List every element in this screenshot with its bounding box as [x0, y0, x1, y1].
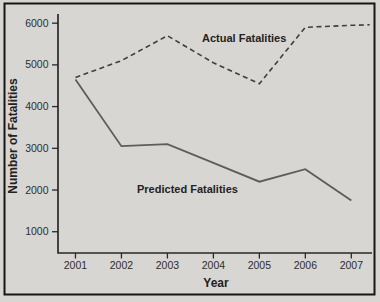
chart-frame	[5, 4, 375, 295]
y-tick-label: 6000	[25, 17, 49, 29]
x-tick-label: 2005	[248, 259, 272, 271]
x-tick-label: 2001	[64, 259, 88, 271]
y-axis-title: Number of Fatalities	[6, 78, 20, 194]
x-tick-label: 2002	[110, 259, 134, 271]
x-axis-title: Year	[203, 276, 229, 290]
y-tick-label: 3000	[25, 142, 49, 154]
x-tick-label: 2004	[202, 259, 226, 271]
x-tick-label: 2007	[340, 259, 364, 271]
x-tick-label: 2006	[294, 259, 318, 271]
predicted-series-inline-label: Predicted Fatalities	[137, 183, 238, 195]
y-tick-label: 5000	[25, 58, 49, 70]
fatalities-line-chart: 1000200030004000500060002001200220032004…	[0, 0, 380, 302]
axis-spines	[58, 14, 372, 253]
y-tick-label: 4000	[25, 100, 49, 112]
axes: 1000200030004000500060002001200220032004…	[25, 14, 372, 271]
actual-series-inline-label: Actual Fatalities	[202, 32, 286, 44]
x-tick-label: 2003	[156, 259, 180, 271]
y-tick-label: 2000	[25, 184, 49, 196]
data-series	[76, 25, 370, 201]
y-tick-label: 1000	[25, 225, 49, 237]
